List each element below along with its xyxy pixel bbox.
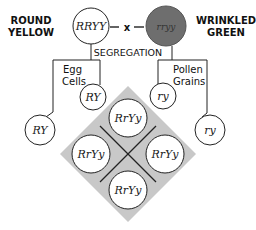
egg-outer-genotype: RY [31, 124, 49, 137]
phenotype-left-line1: ROUND [11, 15, 52, 26]
egg-label-line1: Egg [63, 64, 82, 75]
offspring-right-genotype: RrYy [150, 148, 179, 161]
pollen-inner-genotype: ry [157, 90, 169, 103]
dihybrid-cross-diagram: ROUND YELLOW WRINKLED GREEN x RRYY rryy … [0, 0, 256, 230]
phenotype-left-line2: YELLOW [7, 27, 54, 38]
pollen-label-line2: Grains [173, 76, 205, 87]
genotype-left: RRYY [75, 20, 108, 33]
offspring-top-genotype: RrYy [113, 112, 142, 125]
pollen-outer-genotype: ry [204, 124, 216, 137]
segregation-label: SEGREGATION [94, 47, 162, 58]
pollen-label-line1: Pollen [173, 64, 203, 75]
phenotype-right-line1: WRINKLED [196, 15, 256, 26]
offspring-bottom-genotype: RrYy [113, 184, 142, 197]
cross-symbol: x [124, 22, 131, 33]
genotype-right: rryy [157, 22, 177, 32]
egg-label-line2: Cells [62, 76, 86, 87]
phenotype-right-line2: GREEN [207, 27, 245, 38]
offspring-left-genotype: RrYy [76, 148, 105, 161]
egg-inner-genotype: RY [84, 91, 102, 104]
